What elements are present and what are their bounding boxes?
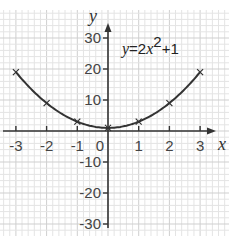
svg-text:-20: -20 [79, 184, 101, 201]
svg-text:-1: -1 [71, 137, 84, 154]
svg-text:20: 20 [84, 60, 101, 77]
svg-text:3: 3 [196, 137, 204, 154]
svg-text:-3: -3 [9, 137, 22, 154]
axes [3, 23, 216, 228]
svg-text:1: 1 [135, 137, 143, 154]
svg-text:-30: -30 [79, 215, 101, 232]
svg-text:2: 2 [165, 137, 173, 154]
graph-paper-grid [0, 10, 229, 236]
svg-text:10: 10 [84, 91, 101, 108]
y-axis-label: y [87, 6, 97, 26]
svg-text:0: 0 [96, 137, 104, 154]
svg-text:-2: -2 [40, 137, 53, 154]
equation-label: y=2x2+1 [120, 33, 179, 58]
quadratic-chart: -3-2-10123302010-10-20-30 y x y=2x2+1 [0, 0, 236, 243]
x-axis-label: x [217, 134, 226, 154]
svg-text:30: 30 [84, 29, 101, 46]
svg-text:-10: -10 [79, 153, 101, 170]
